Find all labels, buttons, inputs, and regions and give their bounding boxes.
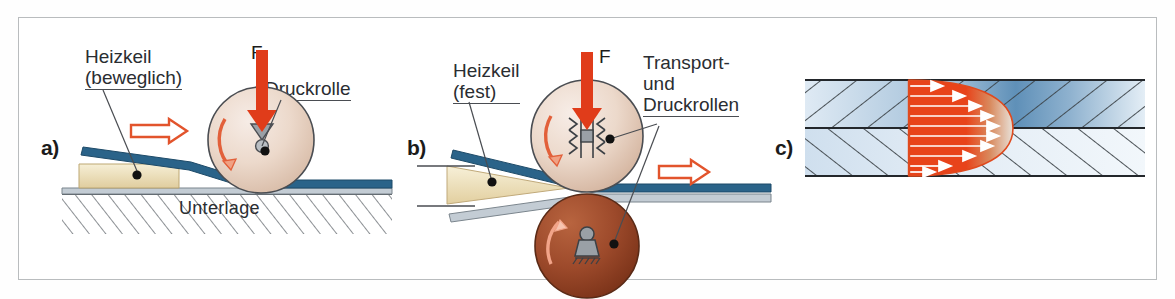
- panel-b-graphics: [391, 18, 791, 281]
- force-arrow-b: [581, 52, 593, 110]
- panel-b: b) Heizkeil (fest) Transport- und Druckr…: [391, 18, 791, 281]
- leader-dot-rollen-b-bottom: [609, 239, 618, 248]
- figure-frame: a) Heizkeil (beweglich) Druckrolle F: [18, 17, 1157, 280]
- panel-a: a) Heizkeil (beweglich) Druckrolle F: [19, 18, 409, 281]
- heizkeil-wedge-a: [79, 164, 179, 188]
- panel-c-graphics: [757, 18, 1158, 281]
- lower-sheet-a: [62, 188, 392, 194]
- panel-c: c): [757, 18, 1158, 281]
- motion-arrow-b: [659, 160, 709, 184]
- motion-arrow-a: [131, 119, 187, 143]
- label-unterlage: Unterlage: [179, 198, 260, 219]
- figure-heizkeilschweissen: a) Heizkeil (beweglich) Druckrolle F: [0, 0, 1175, 299]
- leader-dot-heizkeil-a: [132, 170, 141, 179]
- force-arrow-a: [256, 50, 268, 112]
- leader-dot-druckrolle-a: [260, 146, 269, 155]
- leader-dot-rollen-b-top: [605, 134, 614, 143]
- leader-dot-heizkeil-b: [487, 177, 496, 186]
- panel-a-graphics: [19, 18, 409, 281]
